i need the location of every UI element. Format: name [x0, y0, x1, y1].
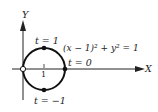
point-origin-open [20, 66, 25, 71]
label-t1: t = 1 [35, 36, 59, 46]
point-tneg1 [42, 88, 47, 93]
point-t1 [42, 46, 47, 51]
label-tneg1: t = −1 [34, 96, 66, 106]
equation-label: (x − 1)² + y² = 1 [63, 44, 139, 53]
y-axis-label: Y [22, 10, 28, 20]
label-t0: t = 0 [68, 58, 92, 68]
x-axis-arrow-icon [135, 66, 145, 72]
tick-label-1: 1 [41, 71, 46, 79]
y-axis-arrow-icon [20, 20, 26, 31]
point-t0 [63, 67, 68, 72]
x-axis-label: X [145, 64, 152, 74]
